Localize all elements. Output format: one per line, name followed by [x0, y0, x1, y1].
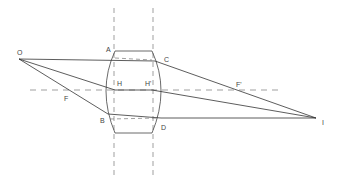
dashed-a-c [115, 58, 152, 60]
label-b: B [100, 117, 105, 124]
label-o: O [17, 49, 22, 56]
ray-c-to-i [155, 61, 316, 118]
ray-o-to-b [19, 59, 108, 114]
lens-diagram [0, 0, 338, 182]
label-f-prime: F' [236, 81, 242, 88]
label-i: I [322, 119, 324, 126]
ray-o-to-h [19, 59, 115, 90]
label-d: D [161, 124, 166, 131]
ray-h-prime-to-i [152, 90, 316, 118]
label-a: A [106, 46, 111, 53]
label-f: F [64, 95, 68, 102]
label-c: C [164, 56, 169, 63]
ray-o-to-c [19, 59, 155, 61]
label-h: H [117, 80, 122, 87]
label-h-prime: H' [145, 80, 151, 87]
dashed-b-d [110, 118, 158, 119]
